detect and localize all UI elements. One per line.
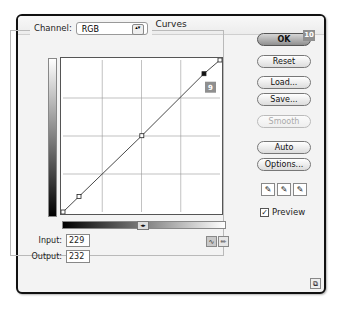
- pencil-tool-icon[interactable]: ✏: [218, 236, 229, 247]
- auto-button[interactable]: Auto: [257, 141, 311, 154]
- channel-value: RGB: [82, 25, 99, 34]
- preview-checkbox[interactable]: ✓: [260, 208, 269, 217]
- options-button[interactable]: Options...: [257, 158, 311, 171]
- curve-point[interactable]: [218, 58, 222, 62]
- channel-row: Channel: RGB ▴▾: [30, 20, 152, 36]
- channel-label: Channel:: [34, 23, 72, 33]
- input-gradient-bar: ◂▸: [62, 221, 226, 229]
- gray-eyedropper-icon[interactable]: ✎: [277, 183, 291, 196]
- curve-graph[interactable]: 9: [60, 57, 223, 215]
- eyedropper-group: ✎ ✎ ✎: [261, 183, 307, 196]
- output-label: Output:: [22, 252, 62, 261]
- ok-annotation-badge: 10: [303, 30, 315, 41]
- input-label: Input:: [22, 236, 62, 245]
- black-eyedropper-icon[interactable]: ✎: [261, 183, 275, 196]
- reset-button[interactable]: Reset: [257, 55, 311, 68]
- input-field[interactable]: 229: [66, 234, 90, 247]
- curve-svg[interactable]: 9: [61, 58, 222, 214]
- curve-tool-icon[interactable]: ∿: [206, 236, 217, 247]
- preview-option[interactable]: ✓ Preview: [260, 207, 305, 217]
- white-eyedropper-icon[interactable]: ✎: [293, 183, 307, 196]
- gradient-toggle-icon[interactable]: ◂▸: [137, 221, 149, 230]
- load-button[interactable]: Load...: [257, 76, 311, 89]
- curve-point-selected[interactable]: [202, 72, 206, 76]
- select-arrows-icon: ▴▾: [132, 24, 144, 35]
- channel-select[interactable]: RGB ▴▾: [76, 22, 148, 35]
- curve-point[interactable]: [61, 210, 65, 214]
- curve-point[interactable]: [140, 134, 144, 138]
- curve-point[interactable]: [77, 195, 81, 199]
- point-annotation-text: 9: [208, 84, 213, 92]
- smooth-button[interactable]: Smooth: [257, 115, 311, 128]
- output-field[interactable]: 232: [66, 250, 90, 263]
- save-button[interactable]: Save...: [257, 93, 311, 106]
- curve-tools: ∿ ✏: [206, 236, 229, 247]
- expand-dialog-icon[interactable]: ⧉: [310, 278, 321, 289]
- output-gradient-bar: [48, 58, 57, 217]
- preview-label: Preview: [272, 207, 305, 217]
